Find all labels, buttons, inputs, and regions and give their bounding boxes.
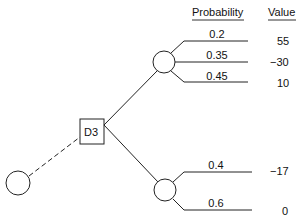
probability-label: 0.2 [209, 28, 224, 40]
probability-label: 0.35 [206, 49, 227, 61]
branch-d3-to-lower [104, 125, 158, 182]
lower-branch-1 [173, 172, 252, 182]
probability-label: 0.6 [208, 197, 223, 209]
decision-node-label: D3 [84, 126, 98, 138]
upper-chance-node [153, 51, 175, 73]
lower-chance-node [154, 179, 176, 201]
dashed-connector [29, 137, 80, 176]
value-label: 10 [277, 77, 289, 89]
value-header: Value [268, 6, 295, 18]
probability-label: 0.4 [208, 159, 223, 171]
value-label: −30 [270, 56, 289, 68]
branch-d3-to-upper [104, 71, 157, 125]
probability-header: Probability [192, 6, 243, 18]
root-chance-node [6, 171, 30, 195]
value-label: −17 [270, 165, 289, 177]
value-label: 55 [277, 35, 289, 47]
value-label: 0 [282, 205, 288, 217]
probability-label: 0.45 [206, 70, 227, 82]
decision-tree-canvas [0, 0, 304, 223]
